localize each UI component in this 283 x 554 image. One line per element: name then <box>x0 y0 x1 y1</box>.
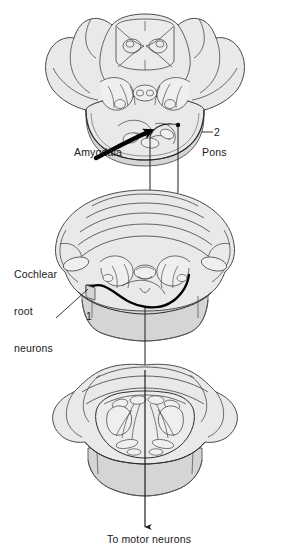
upper-small-nucleus-right <box>165 100 176 109</box>
label-amygdala: Amygdala <box>74 146 122 158</box>
middle-cell-left <box>103 274 113 281</box>
label-cochlear-line-3: neurons <box>14 342 57 354</box>
label-marker-2: 2 <box>214 126 220 138</box>
lower-right-column <box>158 406 183 435</box>
upper-small-nucleus-left <box>115 100 126 109</box>
label-cochlear-line-2: root <box>14 305 57 317</box>
label-to-motor-neurons: To motor neurons <box>107 533 191 545</box>
lower-pyramid-left <box>127 449 141 455</box>
lower-pyramid-right <box>149 449 163 455</box>
label-cochlear-root-neurons: Cochlear root neurons <box>14 243 57 379</box>
middle-cell-right <box>177 274 187 281</box>
label-marker-1: 1 <box>86 310 92 322</box>
upper-brain-section <box>46 14 245 166</box>
lower-left-column <box>107 406 132 435</box>
cochlear-root-soma-box <box>86 285 95 300</box>
label-pons: Pons <box>202 146 227 158</box>
label-cochlear-line-1: Cochlear <box>14 268 57 280</box>
brainstem-pathway-figure: Amygdala Pons 2 Cochlear root neurons 1 … <box>0 0 283 554</box>
